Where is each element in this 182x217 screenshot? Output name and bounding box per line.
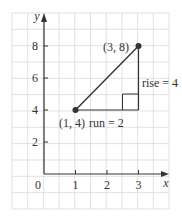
data-point: [73, 107, 79, 113]
x-tick-label: 1: [73, 178, 79, 192]
slope-chart: 123 2468 x y 0 (1, 4)(3, 8) run = 2 rise…: [0, 0, 182, 217]
x-ticks: 123: [73, 170, 142, 192]
point-label: (1, 4): [59, 116, 85, 130]
x-tick-label: 2: [104, 178, 110, 192]
y-axis-label: y: [33, 9, 40, 23]
y-axis-arrow-icon: [41, 13, 47, 22]
data-point: [136, 43, 142, 49]
y-tick-label: 4: [32, 103, 38, 117]
x-tick-label: 3: [136, 178, 142, 192]
right-angle-marker: [123, 94, 139, 110]
y-ticks: 2468: [32, 39, 48, 149]
x-axis-label: x: [162, 176, 169, 190]
axes: 123 2468 x y 0: [32, 9, 169, 192]
point-label: (3, 8): [103, 40, 129, 54]
annotations: run = 2 rise = 4: [89, 76, 178, 130]
y-tick-label: 8: [32, 39, 38, 53]
run-label: run = 2: [89, 116, 124, 130]
y-tick-label: 6: [32, 71, 38, 85]
origin-label: 0: [35, 178, 41, 192]
rise-label: rise = 4: [142, 76, 178, 90]
y-tick-label: 2: [32, 135, 38, 149]
